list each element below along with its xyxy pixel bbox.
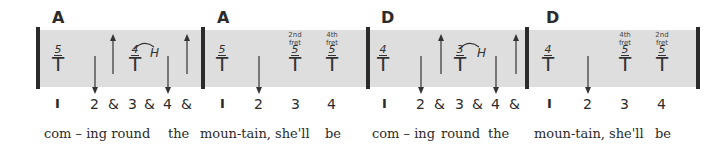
thumb-symbol: T [285, 55, 305, 73]
strum-up-arrow-icon [182, 34, 192, 74]
bar-line [525, 27, 529, 89]
beat-count: 2 [583, 96, 592, 112]
beat-count: I [382, 96, 387, 111]
beat-count: 3 [291, 96, 300, 112]
thumb-symbol: T [615, 55, 635, 73]
beat-count: 4 [163, 96, 172, 112]
thumb-note: 5 T [322, 44, 342, 73]
strum-up-arrow-icon [436, 34, 446, 74]
beat-count: & [472, 96, 483, 112]
strum-down-arrow-icon [163, 56, 173, 94]
beat-count: 4 [327, 96, 336, 112]
beat-count: 2 [254, 96, 263, 112]
strum-down-arrow-icon [254, 56, 264, 94]
beat-count: 3 [620, 96, 629, 112]
strum-down-arrow-icon [90, 56, 100, 94]
chord-label: D [546, 8, 559, 27]
beat-count: & [181, 96, 192, 112]
lyric-text: be [325, 126, 341, 141]
chord-label: D [381, 8, 394, 27]
thumb-note: 5 T [212, 44, 232, 73]
beat-count: 2 [90, 96, 99, 112]
thumb-note: 5 T [48, 44, 68, 73]
lyric-text: moun-tain, she'll [534, 126, 644, 141]
strum-down-arrow-icon [491, 56, 501, 94]
bar-line [201, 27, 205, 89]
chord-label: A [52, 8, 64, 27]
beat-count: I [547, 96, 552, 111]
beat-count: I [220, 96, 225, 111]
beat-count: 2 [416, 96, 425, 112]
thumb-symbol: T [538, 55, 558, 73]
thumb-symbol: T [450, 55, 470, 73]
thumb-note: 5 T [285, 44, 305, 73]
lyric-text: round [441, 126, 480, 141]
beat-count: 3 [455, 96, 464, 112]
lyric-text: moun-tain, she'll [200, 126, 310, 141]
technique-label: H [150, 46, 159, 60]
beat-count: 3 [128, 96, 137, 112]
thumb-symbol: T [48, 55, 68, 73]
thumb-note: 4 T [538, 44, 558, 73]
strum-down-arrow-icon [416, 56, 426, 94]
strum-up-arrow-icon [108, 34, 118, 74]
beat-count: 4 [491, 96, 500, 112]
strum-up-arrow-icon [511, 34, 521, 74]
technique-label: H [477, 46, 486, 60]
chord-label: A [217, 8, 229, 27]
thumb-note: 5 T [615, 44, 635, 73]
thumb-symbol: T [373, 55, 393, 73]
lyric-text: com – ing round [44, 126, 150, 141]
lyric-text: the [488, 126, 509, 141]
thumb-note: 5 T [652, 44, 672, 73]
beat-count: & [144, 96, 155, 112]
bar-line [36, 27, 40, 89]
beat-count: & [108, 96, 119, 112]
bar-line [696, 27, 700, 89]
thumb-symbol: T [322, 55, 342, 73]
lyric-text: the [168, 126, 189, 141]
beat-count: & [509, 96, 520, 112]
beat-count: I [55, 96, 60, 111]
thumb-symbol: T [652, 55, 672, 73]
lyric-text: com – ing [372, 126, 435, 141]
bar-line [366, 27, 370, 89]
lyric-text: be [655, 126, 671, 141]
beat-count: & [434, 96, 445, 112]
beat-count: 4 [657, 96, 666, 112]
thumb-symbol: T [212, 55, 232, 73]
thumb-symbol: T [125, 55, 145, 73]
thumb-note: 4 T [373, 44, 393, 73]
strum-down-arrow-icon [583, 56, 593, 94]
